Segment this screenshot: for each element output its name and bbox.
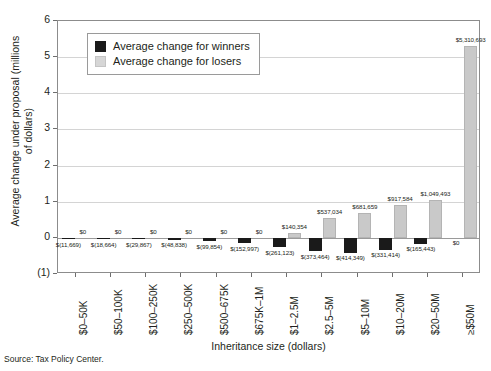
x-tick-mark <box>180 273 181 277</box>
bar-chart: Average change under proposal (millions … <box>0 0 491 371</box>
x-tick-mark <box>357 273 358 277</box>
x-tick-mark <box>251 273 252 277</box>
y-tick-label: 0 <box>16 231 50 242</box>
legend-swatch-winners-icon <box>95 41 106 52</box>
x-tick-label: $0–50K <box>79 301 89 335</box>
source-note: Source: Tax Policy Center. <box>4 354 104 364</box>
bar-group: $(331,414)$917,584 <box>375 21 410 274</box>
x-tick-label: $250–500K <box>184 284 194 335</box>
x-tick-label: $20–50M <box>431 293 441 335</box>
x-axis-title: Inheritance size (dollars) <box>57 340 480 352</box>
x-tick-label: $10–20M <box>396 293 406 335</box>
y-tick-label: 3 <box>16 122 50 133</box>
x-tick-mark <box>75 273 76 277</box>
data-label-losers: $5,310,693 <box>445 37 491 43</box>
legend-swatch-losers-icon <box>95 56 106 67</box>
bar-group: $0$5,310,693 <box>446 21 481 274</box>
x-tick-label: $1–2.5M <box>290 296 300 335</box>
bar-winners <box>203 238 216 242</box>
bar-winners <box>238 238 251 244</box>
bar-losers <box>323 218 336 237</box>
y-tick-label: (1) <box>16 267 50 278</box>
x-tick-label: $50–100K <box>114 289 124 335</box>
data-label-winners: $(331,414) <box>360 252 412 258</box>
bar-group: $(261,123)$140,354 <box>270 21 305 274</box>
x-tick-mark <box>462 273 463 277</box>
x-tick-label: $5–10M <box>361 299 371 335</box>
x-tick-mark <box>321 273 322 277</box>
bar-winners <box>97 238 110 239</box>
bar-winners <box>379 238 392 250</box>
clipped-title-strip <box>0 0 491 3</box>
x-tick-label: $500–675K <box>220 284 230 335</box>
y-tick-mark <box>53 273 57 274</box>
y-tick-label: 4 <box>16 86 50 97</box>
legend-item-losers: Average change for losers <box>95 54 250 69</box>
bar-losers <box>288 233 301 238</box>
bar-winners <box>414 238 427 244</box>
bar-winners <box>309 238 322 251</box>
bar-losers <box>358 213 371 238</box>
bar-losers <box>464 46 477 238</box>
legend-label-winners: Average change for winners <box>113 41 250 52</box>
x-tick-label: $675K–1M <box>255 287 265 335</box>
bar-losers <box>394 205 407 238</box>
bar-winners <box>168 238 181 240</box>
y-tick-label: 5 <box>16 50 50 61</box>
x-tick-mark <box>392 273 393 277</box>
y-tick-label: 6 <box>16 14 50 25</box>
legend-label-losers: Average change for losers <box>113 56 241 67</box>
data-label-winners: $0 <box>430 240 482 246</box>
data-label-winners: $(165,443) <box>395 246 447 252</box>
y-tick-label: 2 <box>16 159 50 170</box>
bar-losers <box>429 200 442 238</box>
bar-group: $(373,464)$537,034 <box>305 21 340 274</box>
x-tick-mark <box>216 273 217 277</box>
x-tick-label: ≥$50M <box>466 304 476 335</box>
x-tick-mark <box>145 273 146 277</box>
y-tick-label: 1 <box>16 195 50 206</box>
x-tick-mark <box>427 273 428 277</box>
bar-winners <box>273 238 286 247</box>
legend-item-winners: Average change for winners <box>95 39 250 54</box>
x-tick-mark <box>286 273 287 277</box>
x-tick-label: $2.5–5M <box>325 296 335 335</box>
x-tick-mark <box>110 273 111 277</box>
legend: Average change for winners Average chang… <box>87 33 260 75</box>
x-tick-label: $100–250K <box>149 284 159 335</box>
bar-group: $(165,443)$1,049,493 <box>411 21 446 274</box>
bar-winners <box>62 238 75 239</box>
bar-winners <box>132 238 145 239</box>
bar-winners <box>344 238 357 253</box>
bar-group: $(414,349)$681,659 <box>340 21 375 274</box>
